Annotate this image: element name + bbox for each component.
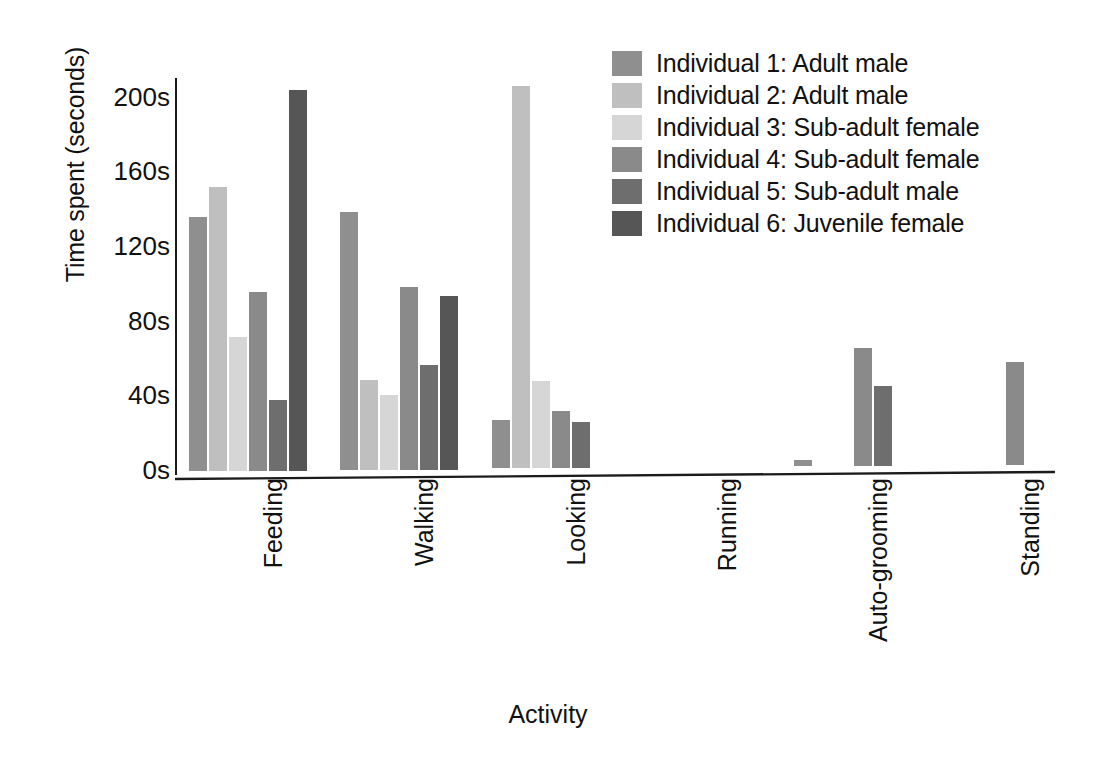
legend-label: Individual 1: Adult male — [656, 49, 908, 78]
bar — [854, 348, 872, 466]
bar — [229, 337, 247, 471]
legend-swatch-icon — [612, 51, 642, 76]
x-tick-label: Running — [713, 478, 742, 571]
legend-item: Individual 4: Sub-adult female — [612, 144, 1082, 174]
y-axis-line — [175, 78, 177, 475]
legend-swatch-icon — [612, 179, 642, 204]
legend-item: Individual 2: Adult male — [612, 80, 1082, 110]
bar-chart-figure: Time spent (seconds) 0s40s80s120s160s200… — [0, 0, 1096, 775]
x-tick-label: Standing — [1016, 478, 1045, 577]
bar — [189, 217, 207, 471]
legend-item: Individual 5: Sub-adult male — [612, 176, 1082, 206]
legend-item: Individual 6: Juvenile female — [612, 208, 1082, 238]
bar — [289, 90, 307, 471]
bar — [1006, 362, 1024, 465]
chart-legend: Individual 1: Adult maleIndividual 2: Ad… — [612, 48, 1082, 240]
y-tick-label: 80s — [75, 305, 170, 336]
bar — [572, 422, 590, 469]
legend-label: Individual 6: Juvenile female — [656, 209, 964, 238]
legend-item: Individual 1: Adult male — [612, 48, 1082, 78]
legend-swatch-icon — [612, 147, 642, 172]
x-tick-label: Walking — [410, 478, 439, 566]
bar — [794, 460, 812, 466]
bar — [552, 411, 570, 469]
x-tick-label: Auto-grooming — [864, 478, 893, 642]
bar — [209, 187, 227, 471]
bar — [492, 420, 510, 469]
bar — [269, 400, 287, 471]
legend-swatch-icon — [612, 115, 642, 140]
x-axis-title: Activity — [0, 700, 1096, 729]
y-tick-label: 160s — [75, 156, 170, 187]
y-tick-label: 120s — [75, 231, 170, 262]
bar — [360, 380, 378, 470]
bar — [340, 212, 358, 470]
x-axis-tick-labels: FeedingWalkingLookingRunningAuto-groomin… — [175, 478, 1055, 688]
bar — [400, 287, 418, 470]
legend-item: Individual 3: Sub-adult female — [612, 112, 1082, 142]
legend-label: Individual 4: Sub-adult female — [656, 145, 979, 174]
legend-label: Individual 3: Sub-adult female — [656, 113, 979, 142]
legend-swatch-icon — [612, 83, 642, 108]
y-axis-tick-labels: 0s40s80s120s160s200s — [60, 0, 170, 775]
legend-label: Individual 2: Adult male — [656, 81, 908, 110]
y-tick-label: 40s — [75, 380, 170, 411]
bar — [512, 86, 530, 469]
bar — [874, 386, 892, 466]
bar — [249, 292, 267, 471]
x-tick-label: Feeding — [259, 478, 288, 568]
bar — [420, 365, 438, 470]
legend-swatch-icon — [612, 211, 642, 236]
legend-label: Individual 5: Sub-adult male — [656, 177, 959, 206]
x-tick-label: Looking — [562, 478, 591, 566]
y-tick-label: 200s — [75, 81, 170, 112]
y-tick-label: 0s — [75, 455, 170, 486]
bar — [532, 381, 550, 469]
bar — [380, 395, 398, 470]
bar — [440, 296, 458, 470]
